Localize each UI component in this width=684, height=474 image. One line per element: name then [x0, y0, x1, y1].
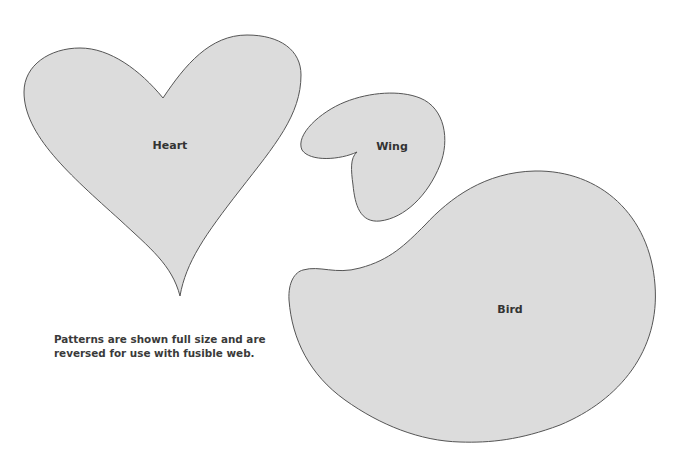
wing-shape — [301, 93, 445, 221]
heart-shape — [24, 35, 301, 296]
wing-label: Wing — [376, 140, 408, 153]
bird-label: Bird — [497, 303, 522, 316]
heart-label: Heart — [153, 139, 188, 152]
pattern-note-line-1: Patterns are shown full size and are — [54, 332, 294, 346]
bird-shape — [289, 171, 656, 442]
pattern-canvas — [0, 0, 684, 474]
pattern-note: Patterns are shown full size and are rev… — [54, 332, 294, 360]
pattern-note-line-2: reversed for use with fusible web. — [54, 346, 294, 360]
